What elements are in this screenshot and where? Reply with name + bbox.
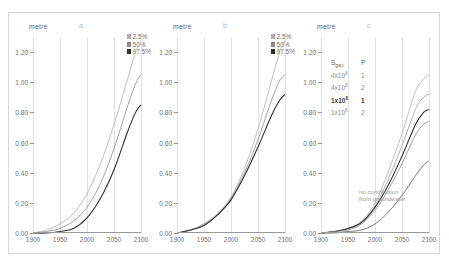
y-axis-tick-mark — [318, 173, 322, 174]
y-axis-tick-mark — [318, 233, 322, 234]
x-axis-tick-label: 2000 — [368, 236, 382, 243]
panel-letter-b: b — [223, 22, 227, 29]
y-axis-tick-label: 1.20 — [159, 49, 172, 56]
y-axis-tick-label: 0.00 — [159, 230, 172, 237]
annotation-line-1: no contribution — [359, 189, 406, 196]
y-axis-tick-mark — [174, 143, 178, 144]
y-axis-tick-mark — [318, 82, 322, 83]
annotation-no-groundwater: no contribution from groundwater — [359, 189, 406, 204]
y-axis-tick-mark — [174, 203, 178, 204]
figure-container: metre a 2.5% 50% 97.5% 19001950200020502… — [8, 12, 440, 254]
y-axis-tick-label: 0.60 — [303, 139, 316, 146]
x-axis-tick-label: 1950 — [53, 236, 67, 243]
y-axis-tick-mark — [30, 112, 34, 113]
x-axis-tick-label: 1950 — [341, 236, 355, 243]
gridline-vertical — [285, 37, 286, 233]
y-axis-tick-label: 0.40 — [15, 169, 28, 176]
series-line — [33, 75, 141, 233]
y-axis-tick-mark — [30, 233, 34, 234]
panel-a: metre a 2.5% 50% 97.5% 19001950200020502… — [9, 13, 153, 253]
x-axis-tick-label: 2050 — [395, 236, 409, 243]
series-line — [321, 75, 429, 233]
y-axis-tick-label: 0.00 — [303, 230, 316, 237]
y-axis-tick-label: 1.00 — [159, 79, 172, 86]
gridline-vertical — [429, 37, 430, 233]
y-axis-tick-mark — [174, 82, 178, 83]
y-axis-unit-label-c: metre — [317, 23, 336, 30]
y-axis-tick-label: 0.20 — [15, 199, 28, 206]
y-axis-tick-label: 0.40 — [303, 169, 316, 176]
y-axis-tick-label: 1.00 — [15, 79, 28, 86]
y-axis-tick-mark — [318, 112, 322, 113]
x-axis-line-a — [33, 232, 141, 233]
y-axis-tick-mark — [30, 52, 34, 53]
y-axis-tick-mark — [30, 82, 34, 83]
y-axis-tick-mark — [318, 143, 322, 144]
series-line — [177, 40, 285, 233]
annotation-line-2: from groundwater — [359, 196, 406, 203]
y-axis-tick-label: 0.40 — [159, 169, 172, 176]
panel-letter-a: a — [79, 22, 83, 29]
panel-c: metre c Sgw,t P 4x108 1 4x108 2 1x108 1 … — [297, 13, 441, 253]
y-axis-tick-mark — [30, 173, 34, 174]
y-axis-tick-mark — [174, 233, 178, 234]
x-axis-tick-label: 2000 — [224, 236, 238, 243]
y-axis-tick-mark — [30, 143, 34, 144]
x-axis-tick-label: 1950 — [197, 236, 211, 243]
x-axis-tick-label: 2050 — [107, 236, 121, 243]
gridline-vertical — [141, 37, 142, 233]
series-line — [177, 75, 285, 233]
x-axis-tick-label: 1900 — [26, 236, 40, 243]
y-axis-tick-label: 0.80 — [303, 109, 316, 116]
curves-b — [177, 37, 285, 233]
panel-b: metre b 2.5% 50% 97.5% 19001950200020502… — [153, 13, 297, 253]
y-axis-tick-mark — [318, 52, 322, 53]
y-axis-tick-label: 1.20 — [15, 49, 28, 56]
y-axis-tick-label: 0.20 — [303, 199, 316, 206]
series-line — [321, 121, 429, 233]
curves-a — [33, 37, 141, 233]
y-axis-tick-label: 0.00 — [15, 230, 28, 237]
y-axis-tick-mark — [318, 203, 322, 204]
y-axis-unit-label-b: metre — [173, 23, 192, 30]
x-axis-tick-label: 2100 — [278, 236, 292, 243]
series-line — [177, 94, 285, 233]
y-axis-tick-mark — [174, 52, 178, 53]
plot-area-b: 190019502000205021000.000.200.400.600.80… — [177, 37, 285, 233]
x-axis-line-c — [321, 232, 429, 233]
x-axis-tick-label: 2100 — [422, 236, 436, 243]
x-axis-tick-label: 2050 — [251, 236, 265, 243]
panel-letter-c: c — [367, 22, 371, 29]
x-axis-line-b — [177, 232, 285, 233]
plot-area-a: 190019502000205021000.000.200.400.600.80… — [33, 37, 141, 233]
series-line — [321, 109, 429, 233]
y-axis-unit-label-a: metre — [29, 23, 48, 30]
y-axis-tick-label: 1.20 — [303, 49, 316, 56]
y-axis-tick-label: 0.80 — [159, 109, 172, 116]
y-axis-tick-label: 1.00 — [303, 79, 316, 86]
y-axis-tick-label: 0.60 — [15, 139, 28, 146]
y-axis-tick-label: 0.20 — [159, 199, 172, 206]
series-line — [321, 94, 429, 233]
x-axis-tick-label: 2100 — [134, 236, 148, 243]
x-axis-tick-label: 1900 — [170, 236, 184, 243]
x-axis-tick-label: 1900 — [314, 236, 328, 243]
x-axis-tick-label: 2000 — [80, 236, 94, 243]
y-axis-tick-label: 0.60 — [159, 139, 172, 146]
y-axis-tick-mark — [30, 203, 34, 204]
series-line — [33, 105, 141, 233]
y-axis-tick-mark — [174, 173, 178, 174]
y-axis-tick-mark — [174, 112, 178, 113]
y-axis-tick-label: 0.80 — [15, 109, 28, 116]
